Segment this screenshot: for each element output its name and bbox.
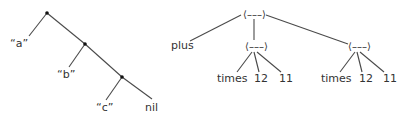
edge-r1-11 xyxy=(257,52,281,72)
edge-r0-plus xyxy=(190,15,241,41)
expr-node-right: ⟨–––⟩ xyxy=(348,41,371,52)
leaf-label-12-1: 12 xyxy=(254,72,268,85)
edge-r0-r2 xyxy=(266,15,348,44)
leaf-label-c: “c” xyxy=(96,101,113,114)
leaf-label-plus: plus xyxy=(171,39,194,52)
edge-n3-nil xyxy=(122,77,152,99)
edge-r2-11 xyxy=(360,52,384,72)
leaf-label-12-2: 12 xyxy=(359,72,373,85)
leaf-label-nil: nil xyxy=(145,101,158,114)
edge-n3-c xyxy=(106,77,122,100)
edge-n2-b xyxy=(69,44,85,67)
leaf-label-a: “a” xyxy=(10,37,28,50)
tree-diagrams: “a” “b” “c” nil ⟨–––⟩ ⟨–––⟩ ⟨–––⟩ plus t… xyxy=(0,0,411,122)
expr-node-root: ⟨–––⟩ xyxy=(243,9,266,20)
edge-r2-12 xyxy=(357,52,362,72)
right-tree: ⟨–––⟩ ⟨–––⟩ ⟨–––⟩ plus times 12 11 times… xyxy=(171,9,397,85)
left-tree: “a” “b” “c” nil xyxy=(10,11,158,114)
leaf-label-times-2: times xyxy=(321,72,352,85)
leaf-label-11-1: 11 xyxy=(279,72,293,85)
cons-node-3 xyxy=(120,75,124,79)
leaf-label-b: “b” xyxy=(57,68,75,81)
edge-n1-a xyxy=(29,13,47,36)
edge-r1-times xyxy=(237,52,252,72)
edge-n2-n3 xyxy=(85,44,122,77)
edge-r2-times xyxy=(340,52,355,72)
cons-node-2 xyxy=(83,42,87,46)
leaf-label-11-2: 11 xyxy=(383,72,397,85)
expr-node-left: ⟨–––⟩ xyxy=(245,41,268,52)
cons-node-1 xyxy=(45,11,49,15)
edge-n1-n2 xyxy=(47,13,85,44)
edge-r1-12 xyxy=(254,52,259,72)
leaf-label-times-1: times xyxy=(217,72,248,85)
